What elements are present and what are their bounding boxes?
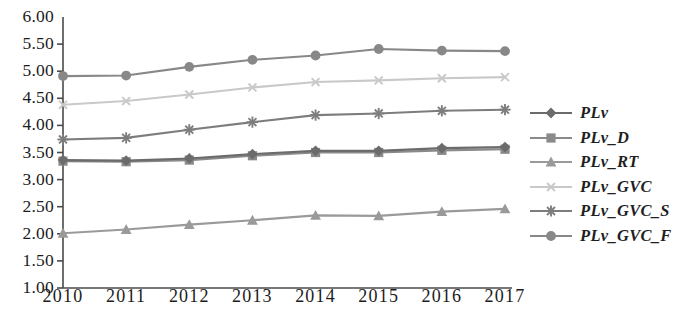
legend-marker-diamond-icon <box>528 102 574 124</box>
legend-item-plv-gvc: PLv_GVC <box>528 175 672 200</box>
y-axis-tick-label: 2.50 <box>0 196 54 217</box>
legend-marker-square-icon <box>528 127 574 149</box>
x-axis-tick-label: 2017 <box>470 286 540 307</box>
chart-legend: PLvPLv_DPLv_RTPLv_GVCPLv_GVC_SPLv_GVC_F <box>528 101 672 248</box>
y-axis-tick-label: 4.00 <box>0 114 54 135</box>
x-axis-tick-label: 2016 <box>407 286 477 307</box>
legend-label: PLv <box>580 103 608 123</box>
x-axis-tick-label: 2010 <box>28 286 98 307</box>
y-axis-tick-label: 5.50 <box>0 33 54 54</box>
legend-item-plv-rt: PLv_RT <box>528 150 672 175</box>
legend-label: PLv_GVC_S <box>580 201 670 221</box>
legend-label: PLv_GVC_F <box>580 226 672 246</box>
legend-label: PLv_RT <box>580 152 639 172</box>
legend-item-plv-gvc-s: PLv_GVC_S <box>528 199 672 224</box>
legend-marker-x-icon <box>528 176 574 198</box>
legend-label: PLv_D <box>580 128 629 148</box>
x-axis-tick-label: 2011 <box>91 286 161 307</box>
legend-marker-triangle-icon <box>528 151 574 173</box>
x-axis-tick-label: 2014 <box>281 286 351 307</box>
y-axis-tick-label: 6.00 <box>0 6 54 27</box>
chart-series-plv-rt <box>58 203 511 237</box>
chart-figure: 1.001.502.002.503.003.504.004.505.005.50… <box>0 0 673 320</box>
x-axis-tick-label: 2015 <box>344 286 414 307</box>
chart-series-plv-gvc-f <box>58 44 510 81</box>
legend-marker-asterisk-icon <box>528 200 574 222</box>
legend-label: PLv_GVC <box>580 177 652 197</box>
y-axis-tick-label: 2.00 <box>0 223 54 244</box>
x-axis-tick-label: 2013 <box>217 286 287 307</box>
y-axis-tick-label: 4.50 <box>0 87 54 108</box>
x-axis-tick-label: 2012 <box>154 286 224 307</box>
legend-item-plv-d: PLv_D <box>528 126 672 151</box>
y-axis-tick-label: 5.00 <box>0 60 54 81</box>
legend-item-plv-gvc-f: PLv_GVC_F <box>528 224 672 249</box>
y-axis-tick-label: 3.50 <box>0 142 54 163</box>
legend-marker-circle-icon <box>528 225 574 247</box>
chart-series-plv-gvc-s <box>57 104 510 145</box>
y-axis-tick-label: 3.00 <box>0 169 54 190</box>
chart-series-layer <box>57 44 510 238</box>
legend-item-plv: PLv <box>528 101 672 126</box>
y-axis-tick-label: 1.50 <box>0 250 54 271</box>
